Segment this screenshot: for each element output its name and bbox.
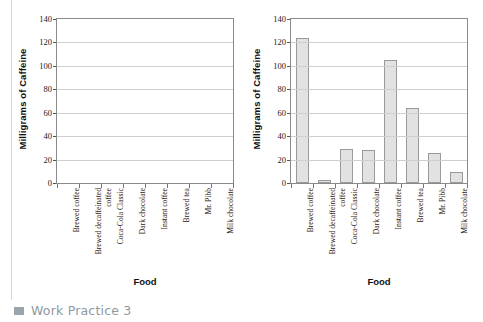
y-tick-label: 0 xyxy=(48,178,52,188)
x-axis-category-label: Brewed decaffeinated coffee xyxy=(328,188,340,270)
y-tick-label: 80 xyxy=(44,84,53,94)
gridline xyxy=(291,89,467,90)
x-axis-category-label: Coca-Cola Classic xyxy=(116,188,128,270)
bar xyxy=(406,108,419,183)
x-axis-category-label: Dark chocolate xyxy=(372,188,384,270)
x-axis-category-label: Dark chocolate xyxy=(138,188,150,270)
gridline xyxy=(57,42,233,43)
footer-caption: Work Practice 3 xyxy=(14,303,131,318)
y-tick-label: 60 xyxy=(44,108,53,118)
bars-container xyxy=(291,19,467,183)
y-tick-label: 20 xyxy=(44,155,53,165)
x-axis-category-label: Coca-Cola Classic xyxy=(350,188,362,270)
x-axis-labels: Brewed coffeeBrewed decaffeinated coffee… xyxy=(56,188,234,270)
x-axis-category-label: Brewed decaffeinated coffee xyxy=(94,188,106,270)
y-tick-label: 140 xyxy=(39,14,52,24)
gridline xyxy=(291,66,467,67)
x-axis-title: Food xyxy=(56,276,234,287)
y-tick-label: 80 xyxy=(278,84,287,94)
x-axis-category-label: Milk chocolate xyxy=(460,188,472,270)
gridline xyxy=(57,113,233,114)
footer-label: Work Practice 3 xyxy=(31,303,131,318)
y-axis-ticks: 020406080100120140 xyxy=(262,18,288,184)
plot-area xyxy=(290,18,468,184)
x-axis-category-label: Brewed tea xyxy=(416,188,428,270)
gridline xyxy=(291,136,467,137)
bar xyxy=(340,149,353,183)
y-tick-label: 0 xyxy=(282,178,286,188)
y-tick-label: 120 xyxy=(39,37,52,47)
bar xyxy=(318,180,331,184)
y-tick-label: 60 xyxy=(278,108,287,118)
gridline xyxy=(291,42,467,43)
y-tick-label: 120 xyxy=(273,37,286,47)
y-tick-label: 100 xyxy=(273,61,286,71)
x-axis-category-label: Brewed coffee xyxy=(72,188,84,270)
x-axis-category-label: Brewed tea xyxy=(182,188,194,270)
y-tick-label: 140 xyxy=(273,14,286,24)
gridline xyxy=(291,160,467,161)
x-axis-category-label: Mr. Pibb xyxy=(438,188,450,270)
bar xyxy=(428,153,441,183)
x-axis-category-label: Instant coffee xyxy=(394,188,406,270)
x-axis-title: Food xyxy=(290,276,468,287)
bar xyxy=(296,38,309,183)
chart-left-blank: Milligrams of Caffeine 02040608010012014… xyxy=(14,8,244,300)
gridline xyxy=(57,89,233,90)
bar xyxy=(384,60,397,183)
y-tick-label: 40 xyxy=(44,131,53,141)
y-tick-label: 40 xyxy=(278,131,287,141)
gridline xyxy=(291,113,467,114)
y-axis-ticks: 020406080100120140 xyxy=(28,18,54,184)
x-axis-category-label: Instant coffee xyxy=(160,188,172,270)
gridline xyxy=(57,136,233,137)
gridline xyxy=(57,160,233,161)
y-tick-label: 20 xyxy=(278,155,287,165)
bar xyxy=(362,150,375,183)
bars-container xyxy=(57,19,233,183)
charts-row: Milligrams of Caffeine 02040608010012014… xyxy=(0,0,483,300)
x-axis-category-label: Mr. Pibb xyxy=(204,188,216,270)
plot-area xyxy=(56,18,234,184)
x-axis-labels: Brewed coffeeBrewed decaffeinated coffee… xyxy=(290,188,468,270)
bar xyxy=(450,172,463,183)
gridline xyxy=(57,66,233,67)
x-axis-category-label: Brewed coffee xyxy=(306,188,318,270)
x-axis-category-label: Milk chocolate xyxy=(226,188,238,270)
square-bullet-icon xyxy=(14,307,24,315)
y-tick-label: 100 xyxy=(39,61,52,71)
chart-right-filled: Milligrams of Caffeine 02040608010012014… xyxy=(248,8,478,300)
